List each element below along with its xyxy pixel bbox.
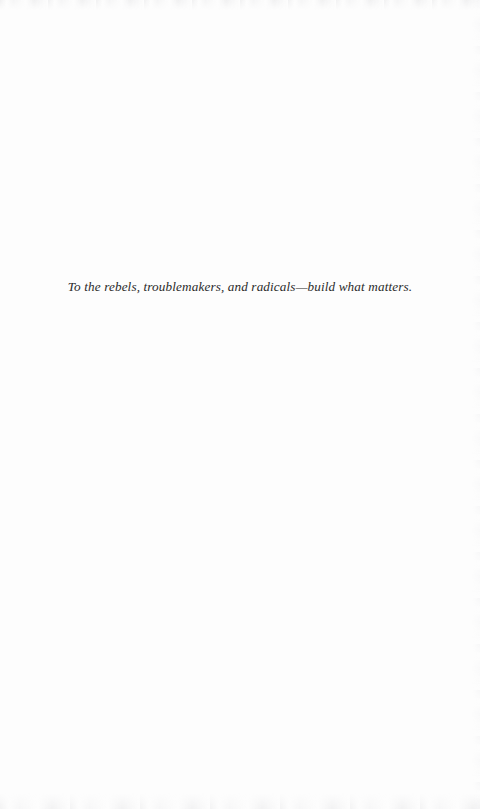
scan-edge-right [472, 0, 480, 809]
dedication-text: To the rebels, troublemakers, and radica… [68, 278, 412, 295]
scan-edge-top [0, 0, 480, 10]
page-surface: To the rebels, troublemakers, and radica… [0, 0, 480, 809]
dedication-block: To the rebels, troublemakers, and radica… [0, 277, 480, 295]
scan-edge-bottom [0, 793, 480, 809]
